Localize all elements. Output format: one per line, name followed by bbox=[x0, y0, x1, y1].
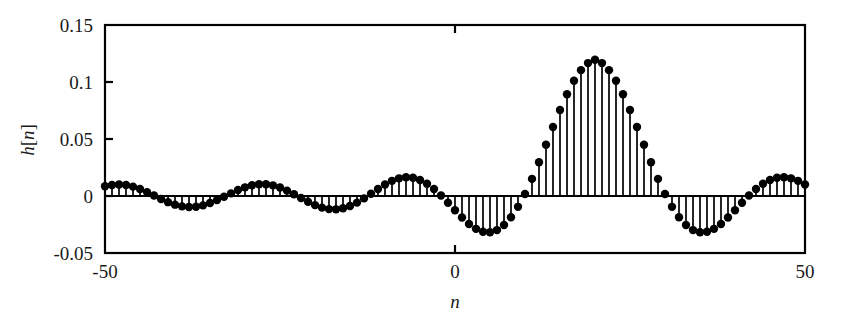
data-point-marker bbox=[318, 203, 326, 211]
y-axis-title-close-bracket: ] bbox=[17, 124, 38, 130]
data-point-marker bbox=[192, 203, 200, 211]
y-tick-label: 0.05 bbox=[60, 129, 93, 150]
data-point-marker bbox=[430, 185, 438, 193]
data-point-marker bbox=[507, 213, 515, 221]
data-point-marker bbox=[563, 90, 571, 98]
data-point-marker bbox=[745, 191, 753, 199]
data-point-marker bbox=[612, 77, 620, 85]
data-point-marker bbox=[122, 181, 130, 189]
y-tick-label: 0.1 bbox=[69, 72, 93, 93]
y-axis-title-group: h[n] bbox=[17, 124, 38, 156]
data-point-marker bbox=[500, 221, 508, 229]
data-point-marker bbox=[668, 203, 676, 211]
data-point-marker bbox=[752, 185, 760, 193]
x-tick-label: -50 bbox=[92, 261, 117, 282]
data-point-marker bbox=[717, 220, 725, 228]
data-point-marker bbox=[535, 158, 543, 166]
data-point-marker bbox=[549, 123, 557, 131]
data-point-marker bbox=[647, 158, 655, 166]
data-point-marker bbox=[801, 180, 809, 188]
data-point-marker bbox=[493, 226, 501, 234]
data-point-marker bbox=[101, 182, 109, 190]
data-point-marker bbox=[542, 141, 550, 149]
data-point-marker bbox=[451, 206, 459, 214]
y-axis-title: h[n] bbox=[17, 124, 38, 156]
data-point-marker bbox=[353, 198, 361, 206]
data-point-marker bbox=[710, 225, 718, 233]
data-point-marker bbox=[444, 199, 452, 207]
x-tick-label: 50 bbox=[796, 261, 815, 282]
data-point-marker bbox=[514, 203, 522, 211]
data-point-marker bbox=[577, 66, 585, 74]
data-point-marker bbox=[682, 221, 690, 229]
impulse-response-chart: -0.0500.050.10.15 -50050 n h[n] bbox=[0, 0, 842, 329]
data-point-marker bbox=[640, 141, 648, 149]
data-point-marker bbox=[374, 185, 382, 193]
data-point-marker bbox=[661, 190, 669, 198]
data-point-marker bbox=[360, 194, 368, 202]
data-point-marker bbox=[528, 175, 536, 183]
data-point-marker bbox=[654, 175, 662, 183]
data-point-marker bbox=[521, 190, 529, 198]
data-point-marker bbox=[633, 123, 641, 131]
data-point-marker bbox=[171, 200, 179, 208]
y-tick-label: 0 bbox=[84, 186, 94, 207]
data-point-marker bbox=[605, 66, 613, 74]
data-point-marker bbox=[465, 220, 473, 228]
data-point-marker bbox=[724, 213, 732, 221]
y-tick-label: 0.15 bbox=[60, 15, 93, 36]
data-point-marker bbox=[619, 90, 627, 98]
x-tick-label: 0 bbox=[450, 261, 460, 282]
x-axis-title: n bbox=[450, 291, 460, 312]
data-point-marker bbox=[556, 106, 564, 114]
data-point-marker bbox=[675, 213, 683, 221]
y-axis-title-n: n bbox=[17, 131, 38, 141]
y-axis-title-h: h bbox=[17, 146, 38, 156]
data-point-marker bbox=[458, 213, 466, 221]
figure-container: -0.0500.050.10.15 -50050 n h[n] bbox=[0, 0, 842, 329]
data-point-marker bbox=[731, 206, 739, 214]
chart-background bbox=[0, 0, 842, 329]
data-point-marker bbox=[570, 77, 578, 85]
data-point-marker bbox=[423, 179, 431, 187]
data-point-marker bbox=[437, 191, 445, 199]
data-point-marker bbox=[367, 190, 375, 198]
data-point-marker bbox=[626, 106, 634, 114]
data-point-marker bbox=[262, 180, 270, 188]
y-tick-label: -0.05 bbox=[53, 243, 93, 264]
data-point-marker bbox=[598, 59, 606, 67]
data-point-marker bbox=[738, 199, 746, 207]
